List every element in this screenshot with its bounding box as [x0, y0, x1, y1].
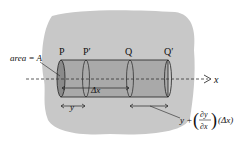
formula-delta-x: (Δx): [218, 115, 233, 125]
point-P-prime-label: P′: [83, 46, 91, 57]
cylinder-body: [61, 60, 168, 97]
point-P-label: P: [59, 46, 65, 57]
point-Q-prime-label: Q′: [164, 46, 173, 57]
x-axis-label: x: [213, 74, 219, 85]
formula-partial-denominator: ∂x: [200, 122, 208, 131]
delta-x-label: Δx: [90, 85, 100, 95]
cross-section-P: [57, 60, 65, 97]
formula-paren-left: (: [193, 110, 199, 131]
y-label: y: [69, 102, 74, 112]
formula-paren-right: ): [211, 110, 217, 131]
formula-y-plus: y +: [179, 115, 192, 125]
area-label: area = A: [10, 53, 43, 63]
formula-partial-numerator: ∂y: [200, 110, 208, 119]
point-Q-label: Q: [125, 46, 133, 57]
wave-element-diagram: area = A P P′ Q Q′ x Δx y y + ( ∂y ∂x ) …: [0, 0, 241, 145]
